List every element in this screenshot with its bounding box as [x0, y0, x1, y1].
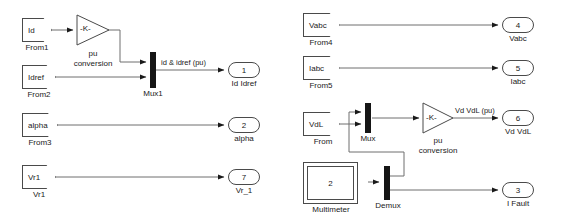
from-block-idref-caption: From2 [14, 90, 64, 100]
out-port-5-caption: Iabc [492, 77, 544, 87]
mux-block-mux1[interactable] [150, 52, 156, 88]
gain-block-pu-conversion-1[interactable]: -K- [76, 14, 110, 46]
gain-block-pu-conversion-2[interactable]: -K- [422, 102, 454, 134]
mux-block-mux-caption: Mux [348, 134, 388, 144]
out-port-number: 6 [516, 114, 520, 123]
out-port-3-caption: I Fault [492, 199, 544, 209]
out-port-4-vabc[interactable]: 4 [502, 17, 534, 33]
signal-label-vd-vdl-pu: Vd VdL (pu) [455, 106, 495, 115]
out-port-number: 5 [516, 64, 520, 73]
out-port-1-caption: Id Idref [218, 79, 270, 89]
from-block-tag: alpha [28, 121, 48, 130]
from-block-alpha-caption: From3 [15, 138, 65, 148]
mux-block-mux1-caption: Mux1 [133, 89, 173, 99]
out-port-2-alpha[interactable]: 2 [228, 117, 260, 133]
gain-block-2-caption-line1: pu [413, 136, 463, 146]
gain-block-1-caption-line1: pu [68, 49, 118, 59]
out-port-number: 4 [516, 21, 520, 30]
from-block-vr1-caption: Vr1 [14, 190, 64, 200]
out-port-2-caption: alpha [218, 134, 270, 144]
from-block-vabc-caption: From4 [296, 38, 346, 48]
multimeter-value-box: 2 [307, 166, 354, 200]
from-block-tag: Vr1 [28, 173, 40, 182]
from-block-iabc-caption: From5 [296, 81, 346, 91]
multimeter-caption: Multimeter [302, 205, 360, 215]
out-port-5-iabc[interactable]: 5 [502, 60, 534, 76]
from-block-tag: VdL [309, 120, 323, 129]
out-port-4-caption: Vabc [492, 34, 544, 44]
out-port-7-caption: Vr_1 [218, 186, 270, 196]
out-port-number: 1 [242, 66, 246, 75]
gain-value: -K- [426, 113, 446, 122]
out-port-3-i-fault[interactable]: 3 [502, 182, 534, 198]
out-port-1-id-idref[interactable]: 1 [228, 62, 260, 78]
gain-block-2-caption-line2: conversion [413, 146, 463, 156]
gain-block-1-caption-line2: conversion [68, 59, 118, 69]
from-block-tag: Idref [28, 73, 44, 82]
gain-value: -K- [80, 24, 100, 33]
mux-block-mux[interactable] [365, 103, 371, 133]
block-diagram-canvas: Id From1 Idref From2 alpha From3 Vr1 Vr1… [0, 0, 561, 217]
from-block-vdl-caption: From [298, 137, 348, 147]
demux-block[interactable] [384, 166, 390, 200]
out-port-number: 2 [242, 121, 246, 130]
from-block-id-caption: From1 [12, 43, 62, 53]
out-port-number: 3 [516, 186, 520, 195]
out-port-number: 7 [242, 173, 246, 182]
multimeter-block[interactable]: 2 [303, 162, 358, 204]
from-block-tag: Vabc [309, 21, 327, 30]
out-port-7-vr1[interactable]: 7 [228, 169, 260, 185]
signal-label-id-idref-pu: id & idref (pu) [161, 58, 206, 67]
from-block-tag: Id [28, 26, 35, 35]
demux-block-caption: Demux [367, 201, 409, 211]
out-port-6-caption: Vd VdL [492, 127, 544, 137]
out-port-6-vd-vdl[interactable]: 6 [502, 110, 534, 126]
multimeter-value: 2 [328, 179, 332, 188]
from-block-tag: Iabc [309, 64, 324, 73]
